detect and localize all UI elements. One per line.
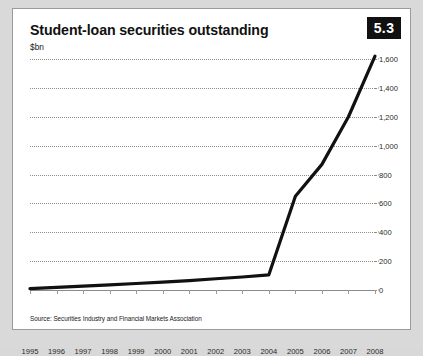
y-axis-label: 1,600 — [379, 55, 398, 64]
x-axis-label: 2000 — [154, 347, 171, 356]
y-axis-label: 600 — [379, 199, 392, 208]
x-tick-mark — [375, 290, 376, 294]
y-axis-label: 1,000 — [379, 141, 398, 150]
x-tick-mark — [30, 290, 31, 294]
x-tick-mark — [269, 290, 270, 294]
y-axis-label: 400 — [379, 228, 392, 237]
x-tick-mark — [348, 290, 349, 294]
chart-title: Student-loan securities outstanding — [30, 22, 269, 38]
chart-panel: 5.3 Student-loan securities outstanding … — [12, 8, 411, 330]
x-tick-mark — [163, 290, 164, 294]
y-axis-label: 800 — [379, 170, 392, 179]
figure-number-badge: 5.3 — [367, 17, 401, 39]
x-axis-label: 2005 — [287, 347, 304, 356]
y-axis-label: 200 — [379, 257, 392, 266]
x-tick-mark — [242, 290, 243, 294]
x-axis-label: 1998 — [101, 347, 118, 356]
x-axis-label: 2002 — [207, 347, 224, 356]
x-tick-mark — [110, 290, 111, 294]
x-tick-mark — [295, 290, 296, 294]
x-axis-label: 1999 — [128, 347, 145, 356]
x-axis-label: 2003 — [234, 347, 251, 356]
data-line — [30, 56, 375, 288]
x-tick-mark — [322, 290, 323, 294]
x-axis-label: 1997 — [75, 347, 92, 356]
y-axis-label: 0 — [379, 286, 383, 295]
x-tick-mark — [216, 290, 217, 294]
x-axis-label: 2008 — [367, 347, 384, 356]
x-tick-mark — [83, 290, 84, 294]
source-note: Source: Securities Industry and Financia… — [30, 315, 202, 322]
chart-unit-label: $bn — [30, 42, 44, 52]
axis-baseline — [30, 290, 375, 291]
x-tick-mark — [57, 290, 58, 294]
x-axis-label: 2007 — [340, 347, 357, 356]
y-axis-label: 1,400 — [379, 83, 398, 92]
x-axis-label: 2006 — [313, 347, 330, 356]
y-axis-label: 1,200 — [379, 112, 398, 121]
series-layer — [30, 59, 375, 290]
x-axis-label: 2004 — [260, 347, 277, 356]
plot-area: 02004006008001,0001,2001,4001,6001995199… — [30, 59, 375, 290]
x-axis-label: 1996 — [48, 347, 65, 356]
x-tick-mark — [136, 290, 137, 294]
x-axis-label: 2001 — [181, 347, 198, 356]
x-tick-mark — [189, 290, 190, 294]
x-axis-label: 1995 — [22, 347, 39, 356]
